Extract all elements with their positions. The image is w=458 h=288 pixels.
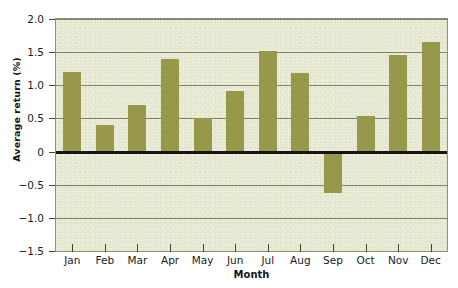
x-tick-mark xyxy=(333,244,334,252)
y-tick-label: 1.0 xyxy=(27,79,44,91)
x-tick-mark xyxy=(203,244,204,252)
x-tick-label-aug: Aug xyxy=(290,254,311,266)
x-axis-ticks xyxy=(55,0,448,288)
y-tick-label: −1.5 xyxy=(19,245,45,257)
x-tick-mark xyxy=(268,244,269,252)
x-axis-title: Month xyxy=(55,269,448,280)
y-tick-label: −1.0 xyxy=(19,212,45,224)
x-tick-label-apr: Apr xyxy=(161,254,179,266)
y-tick-label: 1.5 xyxy=(27,46,44,58)
x-tick-mark xyxy=(170,244,171,252)
x-tick-label-mar: Mar xyxy=(128,254,148,266)
x-tick-label-dec: Dec xyxy=(421,254,441,266)
bar-chart: Average return (%) 2.01.51.00.50−0.5−1.0… xyxy=(0,0,458,288)
x-tick-label-feb: Feb xyxy=(96,254,115,266)
x-tick-mark xyxy=(431,244,432,252)
x-tick-mark xyxy=(105,244,106,252)
x-tick-label-jul: Jul xyxy=(261,254,274,266)
x-tick-mark xyxy=(137,244,138,252)
x-tick-label-jan: Jan xyxy=(64,254,80,266)
x-tick-mark xyxy=(366,244,367,252)
x-tick-label-nov: Nov xyxy=(388,254,409,266)
y-tick-label: 2.0 xyxy=(27,13,44,25)
x-tick-mark xyxy=(235,244,236,252)
x-tick-mark xyxy=(300,244,301,252)
y-tick-label: 0 xyxy=(37,146,44,158)
x-tick-mark xyxy=(398,244,399,252)
x-tick-label-sep: Sep xyxy=(323,254,343,266)
y-tick-label: −0.5 xyxy=(19,179,45,191)
x-tick-label-may: May xyxy=(192,254,214,266)
x-tick-mark xyxy=(72,244,73,252)
x-axis-tick-labels: JanFebMarAprMayJunJulAugSepOctNovDec xyxy=(55,254,448,270)
x-tick-label-jun: Jun xyxy=(227,254,243,266)
x-tick-label-oct: Oct xyxy=(356,254,374,266)
y-axis-tick-labels: 2.01.51.00.50−0.5−1.0−1.5 xyxy=(0,18,50,252)
y-tick-label: 0.5 xyxy=(27,112,44,124)
